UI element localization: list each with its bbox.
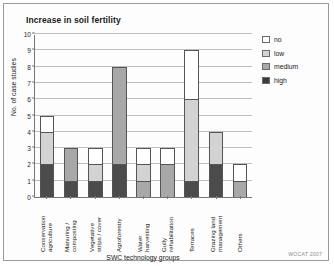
x-tick-mark [70, 196, 71, 199]
x-tick-label: Others [236, 200, 243, 252]
y-tick-label: 6 [27, 96, 31, 103]
stacked-bar[interactable] [64, 148, 78, 197]
bar-slot [35, 35, 59, 197]
legend-item-high[interactable]: high [262, 77, 298, 84]
bar-segment-medium[interactable] [234, 181, 246, 197]
x-axis-labels: Conservation agricultureManuring / compo… [34, 200, 252, 252]
bar-slot [131, 35, 155, 197]
legend-label: low [274, 50, 284, 57]
bar-segment-medium[interactable] [161, 164, 173, 197]
y-axis-title: No. of case studies [10, 58, 17, 116]
legend: nolowmediumhigh [262, 36, 298, 84]
bar-segment-no[interactable] [234, 164, 246, 180]
bar-slot [180, 35, 204, 197]
stacked-bar[interactable] [209, 132, 223, 197]
chart-frame: Increase in soil fertility No. of case s… [3, 3, 329, 261]
x-tick-mark [191, 196, 192, 199]
bar-segment-medium[interactable] [65, 148, 77, 181]
x-tick-mark [167, 196, 168, 199]
credit-text: WOCAT 2007 [288, 251, 322, 257]
x-tick-mark [46, 196, 47, 199]
bar-segment-no[interactable] [41, 116, 53, 132]
bar-segment-high[interactable] [65, 181, 77, 197]
x-label-slot: Manuring / composting [58, 200, 82, 252]
x-label-slot: Conservation agriculture [34, 200, 58, 252]
y-tick-label: 7 [27, 79, 31, 86]
x-tick-mark [143, 196, 144, 199]
stacked-bar[interactable] [136, 148, 150, 197]
x-label-slot: Gully rehabilitation [155, 200, 179, 252]
bar-segment-high[interactable] [185, 181, 197, 197]
stacked-bar[interactable] [160, 148, 174, 197]
legend-item-no[interactable]: no [262, 36, 298, 43]
gridline [35, 33, 252, 34]
x-label-slot: Others [228, 200, 252, 252]
stacked-bar[interactable] [112, 67, 126, 197]
plot-area: 012345678910 [34, 35, 252, 198]
x-tick-mark [216, 196, 217, 199]
y-tick-label: 5 [27, 112, 31, 119]
legend-swatch-no [262, 36, 270, 43]
y-tick-label: 0 [27, 194, 31, 201]
x-tick-mark [95, 196, 96, 199]
x-axis-title: SWC technology groups [34, 254, 252, 261]
x-label-slot: Water harvesting [131, 200, 155, 252]
x-tick-label: Conservation agriculture [39, 200, 53, 252]
bar-slot [83, 35, 107, 197]
stacked-bar[interactable] [88, 148, 102, 197]
bar-segment-no[interactable] [161, 148, 173, 164]
y-tick-label: 9 [27, 47, 31, 54]
bar-segment-no[interactable] [185, 50, 197, 99]
x-tick-label: Water harvesting [136, 200, 150, 252]
y-tick-label: 2 [27, 161, 31, 168]
legend-label: no [274, 36, 282, 43]
bar-segment-no[interactable] [89, 148, 101, 164]
y-tick-label: 8 [27, 63, 31, 70]
stacked-bar[interactable] [40, 116, 54, 198]
bar-segment-high[interactable] [89, 181, 101, 197]
bar-segment-high[interactable] [113, 164, 125, 197]
bar-segment-low[interactable] [137, 164, 149, 180]
y-tick-label: 3 [27, 145, 31, 152]
bar-segment-high[interactable] [210, 164, 222, 197]
bar-slot [228, 35, 252, 197]
x-label-slot: Vegetative strips / cover [82, 200, 106, 252]
x-label-slot: Grazing land management [204, 200, 228, 252]
bar-slot [204, 35, 228, 197]
bar-slot [107, 35, 131, 197]
x-label-slot: Agroforestry [107, 200, 131, 252]
x-tick-label: Agroforestry [115, 200, 122, 252]
legend-label: high [274, 77, 287, 84]
y-tick-label: 1 [27, 177, 31, 184]
y-tick-label: 10 [24, 31, 31, 38]
y-tick-label: 4 [27, 128, 31, 135]
bar-slot [59, 35, 83, 197]
x-tick-label: Gully rehabilitation [160, 200, 174, 252]
bar-segment-high[interactable] [41, 164, 53, 197]
legend-swatch-medium [262, 63, 270, 70]
y-tick-mark [32, 33, 35, 34]
x-tick-label: Terraces [188, 200, 195, 252]
bar-segment-low[interactable] [41, 132, 53, 165]
x-tick-mark [119, 196, 120, 199]
legend-swatch-low [262, 50, 270, 57]
stacked-bar[interactable] [184, 50, 198, 197]
bar-segment-low[interactable] [185, 99, 197, 180]
bar-segment-medium[interactable] [137, 181, 149, 197]
x-tick-label: Manuring / composting [63, 200, 77, 252]
x-tick-label: Grazing land management [209, 200, 223, 252]
legend-item-medium[interactable]: medium [262, 63, 298, 70]
legend-label: medium [274, 63, 298, 70]
chart-title: Increase in soil fertility [26, 15, 121, 25]
bar-segment-low[interactable] [89, 164, 101, 180]
stacked-bar[interactable] [233, 164, 247, 197]
x-label-slot: Terraces [179, 200, 203, 252]
bar-segment-low[interactable] [210, 132, 222, 165]
legend-item-low[interactable]: low [262, 50, 298, 57]
x-tick-mark [240, 196, 241, 199]
bar-segment-no[interactable] [137, 148, 149, 164]
bar-segment-medium[interactable] [113, 67, 125, 165]
bar-slot [156, 35, 180, 197]
x-tick-label: Vegetative strips / cover [88, 200, 102, 252]
legend-swatch-high [262, 77, 270, 84]
